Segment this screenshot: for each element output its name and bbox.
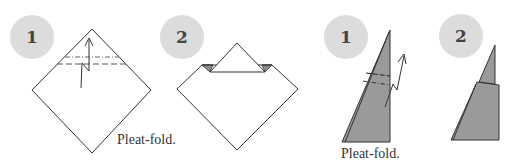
step-badge: 1: [10, 15, 54, 59]
step-number: 1: [26, 27, 38, 47]
panel-b-step-2-paper: [451, 45, 499, 140]
step-number: 2: [455, 26, 467, 46]
origami-diagram: 1 2 1 2 Pleat-fold. Pleat-fold.: [0, 0, 520, 165]
step-badge: 1: [324, 15, 368, 59]
step-number: 1: [340, 27, 352, 47]
step-badge: 2: [160, 15, 204, 59]
step-caption: Pleat-fold.: [341, 146, 400, 162]
panel-a-step-2-paper: [177, 43, 298, 150]
step-number: 2: [176, 27, 188, 47]
step-badge: 2: [439, 14, 483, 58]
step-caption: Pleat-fold.: [117, 132, 176, 148]
